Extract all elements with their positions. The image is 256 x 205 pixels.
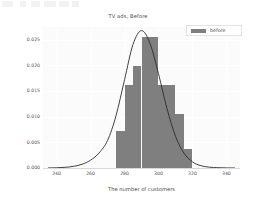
legend-swatch-before: [191, 29, 206, 33]
y-tick-label: 0.005: [0, 140, 40, 145]
x-tick-label: 340: [222, 171, 231, 176]
plot-area: [43, 27, 240, 168]
chart-figure: TV ads, Before 0.0000.0050.0100.0150.020…: [0, 0, 256, 205]
x-tick-label: 280: [120, 171, 129, 176]
chrome-ghost-segment: [59, 1, 69, 7]
y-tick-label: 0.020: [0, 63, 40, 68]
kde-curve-path: [48, 31, 235, 168]
chrome-ghost-segment: [72, 1, 79, 7]
y-tick-label: 0.000: [0, 165, 40, 170]
y-axis-ticks: 0.0000.0050.0100.0150.0200.025: [0, 0, 40, 205]
y-tick-label: 0.015: [0, 88, 40, 93]
x-tick-label: 320: [188, 171, 197, 176]
legend-label-before: before: [210, 28, 225, 33]
x-tick-label: 260: [86, 171, 95, 176]
x-axis-label: The number of customers: [43, 186, 240, 192]
chrome-ghost-segment: [44, 1, 56, 7]
legend: before: [186, 25, 242, 36]
x-tick-label: 240: [52, 171, 61, 176]
x-axis-spine: [43, 168, 240, 169]
x-tick-label: 300: [154, 171, 163, 176]
y-tick-label: 0.010: [0, 114, 40, 119]
kde-curve: [43, 27, 240, 168]
y-tick-label: 0.025: [0, 37, 40, 42]
